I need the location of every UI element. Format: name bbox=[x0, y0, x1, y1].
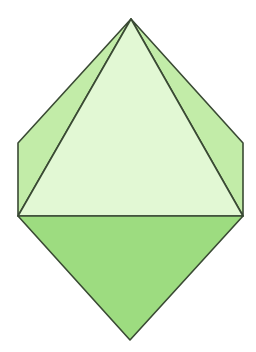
bottom-face bbox=[18, 216, 243, 340]
diagram-canvas bbox=[0, 0, 256, 352]
polyhedron-figure bbox=[0, 0, 256, 352]
